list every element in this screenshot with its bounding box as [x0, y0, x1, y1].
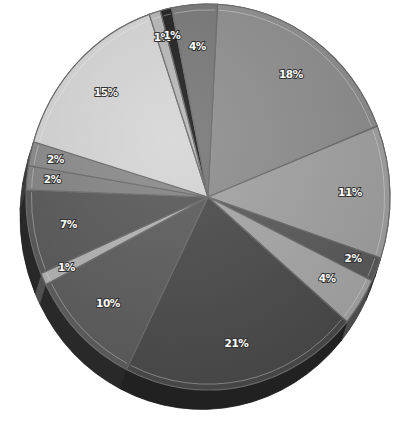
pie-chart: 18%11%2%4%21%10%1%7%2%2%15%1%1%4% — [0, 0, 394, 427]
pie-data-label: 18% — [279, 68, 304, 80]
pie-data-label: 10% — [96, 297, 121, 309]
pie-data-label: 15% — [94, 86, 119, 98]
pie-data-label: 2% — [345, 252, 363, 264]
pie-data-label: 2% — [47, 153, 65, 165]
pie-data-label: 11% — [338, 186, 363, 198]
pie-data-label: 21% — [225, 337, 250, 349]
pie-data-label: 1% — [58, 261, 76, 273]
pie-data-label: 7% — [60, 218, 78, 230]
pie-data-label: 4% — [319, 272, 337, 284]
pie-data-label: 2% — [44, 173, 62, 185]
pie-data-label: 1% — [163, 29, 181, 41]
pie-data-label: 4% — [189, 40, 207, 52]
pie-slices — [26, 4, 390, 390]
